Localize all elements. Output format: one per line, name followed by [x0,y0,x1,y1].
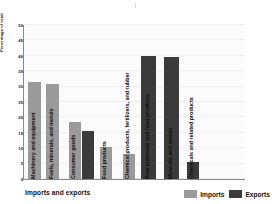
legend: Imports Exports [184,190,270,198]
bar-label: Minerals and metals [167,127,174,179]
y-axis-tick-mark [21,148,23,149]
legend-swatch-imports-icon [184,190,197,198]
bar-label: Raw materials and food products [144,94,151,179]
y-axis-tick-mark [21,56,23,57]
y-axis-tick-mark [21,40,23,41]
y-axis-tick-mark [21,133,23,134]
bar-label: Consumer goods [70,135,77,179]
bar-label: Chemical products, fertilizers, and rubb… [124,72,131,179]
top-tick-mark [135,3,136,8]
legend-item-exports[interactable]: Exports [229,190,270,198]
y-axis-title: Percentage of total [0,13,4,52]
bar-chart: 05101520253035404550 Percentage of total… [0,0,272,204]
y-axis-tick-mark [21,87,23,88]
bar[interactable] [82,131,94,179]
bars-group: Machinery and equipmentFuels, minerals, … [24,25,245,179]
y-axis-tick-mark [21,117,23,118]
y-axis-tick-mark [21,102,23,103]
legend-swatch-exports-icon [229,190,242,198]
y-axis-tick-mark [21,25,23,26]
legend-item-imports[interactable]: Imports [184,190,224,198]
bar-label: Chemicals and related products [188,97,195,179]
bar-label: Food products [101,141,108,179]
y-axis-tick-mark [21,71,23,72]
bar-label: Fuels, minerals, and metals [48,109,55,179]
y-axis-tick-mark [21,164,23,165]
legend-label-exports: Exports [245,191,270,198]
bar-label: Machinery and equipment [30,113,37,180]
y-axis-tick-mark [21,179,23,180]
x-axis-title: Imports and exports [25,189,90,196]
legend-label-imports: Imports [200,191,224,198]
